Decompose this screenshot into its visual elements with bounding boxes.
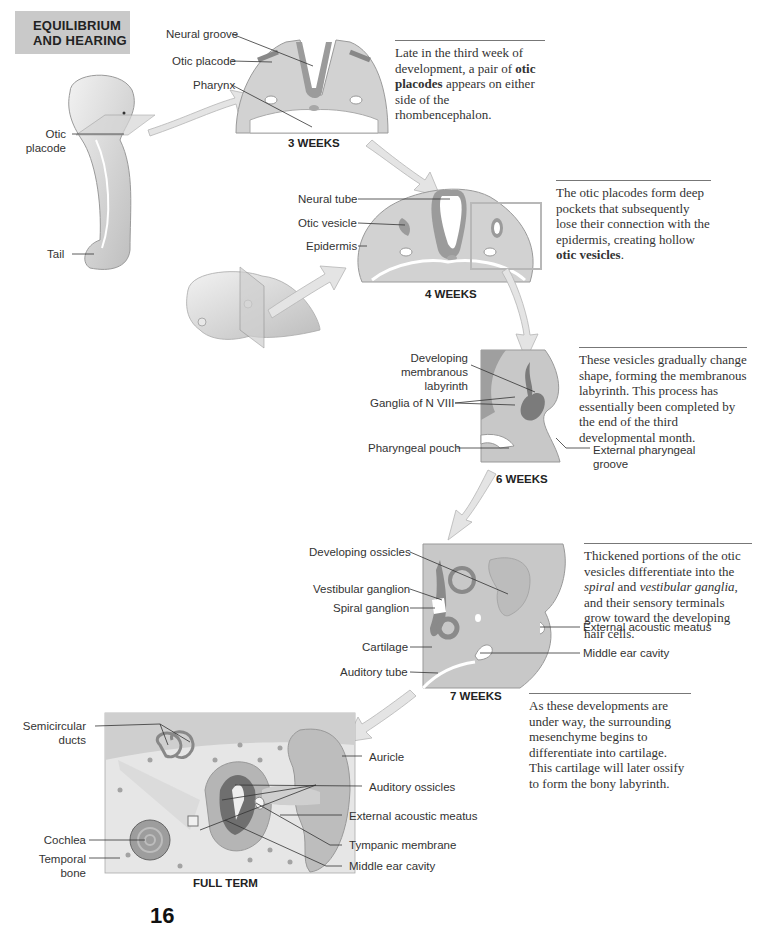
label-temporal-2: bone <box>10 866 86 880</box>
note-text: Late in the third week of development, a… <box>395 45 523 76</box>
label-spiral-ganglion: Spiral ganglion <box>333 601 409 615</box>
section-6-weeks <box>481 350 560 462</box>
stage-title-6-weeks: 6 WEEKS <box>496 473 548 485</box>
note-text: and <box>614 579 639 594</box>
label-semicircular-2: ducts <box>10 733 86 747</box>
stage-title-7-weeks: 7 WEEKS <box>450 690 502 702</box>
label-epidermis: Epidermis <box>306 239 357 253</box>
note-4-weeks: The otic placodes form deep pockets that… <box>556 180 711 263</box>
label-temporal-1: Temporal <box>10 852 86 866</box>
label-semicircular-1: Semicircular <box>10 719 86 733</box>
label-tail: Tail <box>47 247 64 261</box>
label-developing-membranous-1: Developing <box>380 351 468 365</box>
label-auditory-ossicles: Auditory ossicles <box>369 780 455 794</box>
stage-title-full-term: FULL TERM <box>193 877 258 889</box>
label-neural-tube: Neural tube <box>298 192 357 206</box>
note-text: The otic placodes form deep pockets that… <box>556 185 710 247</box>
label-cochlea: Cochlea <box>10 833 86 847</box>
stage-title-4-weeks: 4 WEEKS <box>425 288 477 300</box>
label-otic-vesicle: Otic vesicle <box>298 216 357 230</box>
label-developing-membranous-3: labyrinth <box>380 379 468 393</box>
note-3-weeks: Late in the third week of development, a… <box>395 40 545 123</box>
label-external-pharyngeal-2: groove <box>593 457 628 471</box>
note-term-spiral: spiral <box>584 579 614 594</box>
label-external-acoustic-meatus-full: External acoustic meatus <box>349 809 477 823</box>
label-vestibular-ganglion: Vestibular ganglion <box>313 582 410 596</box>
label-middle-ear-cavity-full: Middle ear cavity <box>349 859 435 873</box>
label-otic-placode-embryo-1: Otic <box>30 127 66 141</box>
note-term-vestibular-ganglia: vestibular ganglia <box>640 579 735 594</box>
note-text: Thickened portions of the otic vesicles … <box>584 548 741 579</box>
note-cartilage: As these developments are under way, the… <box>529 693 691 791</box>
note-term-otic-vesicles: otic vesicles <box>556 247 621 262</box>
label-external-pharyngeal-1: External pharyngeal <box>593 443 695 457</box>
page-number: 16 <box>150 903 174 927</box>
label-pharyngeal-pouch: Pharyngeal pouch <box>368 441 461 455</box>
label-tympanic-membrane: Tympanic membrane <box>349 838 456 852</box>
note-7-weeks: Thickened portions of the otic vesicles … <box>584 543 752 641</box>
note-6-weeks: These vesicles gradually change shape, f… <box>579 347 747 445</box>
note-text: . <box>621 247 624 262</box>
embryo-icon <box>69 75 155 269</box>
label-neural-groove: Neural groove <box>166 27 238 41</box>
section-full-term <box>105 713 355 873</box>
section-3-weeks <box>236 40 388 133</box>
section-4-weeks <box>358 189 541 282</box>
label-pharynx: Pharynx <box>193 78 235 92</box>
label-developing-ossicles: Developing ossicles <box>309 545 411 559</box>
stage-title-3-weeks: 3 WEEKS <box>288 137 340 149</box>
label-cartilage: Cartilage <box>362 640 408 654</box>
label-ganglia-n-viii: Ganglia of N VIII <box>370 396 454 410</box>
embryo-4-weeks-icon <box>187 267 320 348</box>
label-otic-placode: Otic placode <box>172 54 236 68</box>
label-middle-ear-cavity-7wk: Middle ear cavity <box>583 646 669 660</box>
label-auditory-tube: Auditory tube <box>340 665 408 679</box>
label-otic-placode-embryo-2: placode <box>20 141 66 155</box>
section-7-weeks <box>423 544 565 688</box>
label-auricle: Auricle <box>369 750 404 764</box>
label-developing-membranous-2: membranous <box>380 365 468 379</box>
